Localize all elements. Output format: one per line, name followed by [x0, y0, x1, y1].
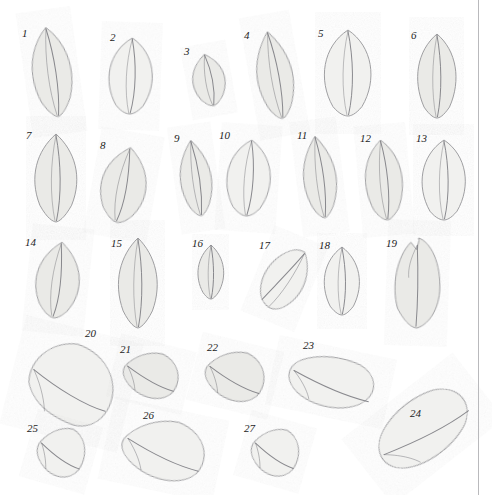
specimen-label-11: 11	[297, 130, 307, 141]
leaf-specimen-1	[26, 25, 77, 120]
leaf-specimen-13	[422, 140, 465, 220]
leaf-specimen-5	[324, 30, 371, 116]
leaf-specimen-16	[198, 245, 224, 299]
leaf-specimen-canvas	[0, 0, 492, 495]
leaf-specimen-2	[108, 37, 154, 114]
specimen-label-13: 13	[416, 133, 427, 144]
specimen-label-1: 1	[22, 28, 28, 39]
specimen-label-9: 9	[174, 133, 180, 144]
specimen-label-19: 19	[386, 238, 397, 249]
leaf-specimen-7	[35, 134, 77, 222]
specimen-label-16: 16	[192, 238, 203, 249]
leaf-outline-5	[324, 30, 371, 116]
leaf-outline-3	[188, 52, 229, 109]
leaf-outline-8	[95, 144, 153, 227]
leaf-specimen-4	[250, 29, 300, 122]
leaf-specimen-11	[299, 134, 341, 219]
leaf-specimen-20	[21, 335, 123, 433]
specimen-label-7: 7	[26, 130, 32, 141]
specimen-label-2: 2	[110, 32, 116, 43]
leaf-outline-4	[250, 29, 300, 122]
leaf-specimen-3	[188, 52, 229, 109]
specimen-label-6: 6	[411, 30, 417, 41]
leaf-specimen-17	[253, 241, 315, 316]
leaf-outline-18	[324, 247, 359, 315]
leaf-specimen-8	[95, 144, 153, 227]
specimen-label-23: 23	[303, 340, 314, 351]
specimen-label-26: 26	[143, 410, 154, 421]
leaf-outline-2	[108, 37, 154, 114]
leaf-outline-26	[116, 412, 210, 487]
leaf-specimen-9	[175, 138, 216, 218]
leaf-specimen-23	[284, 349, 378, 416]
specimen-label-17: 17	[259, 240, 270, 251]
leaf-outline-23	[284, 349, 378, 416]
leaf-specimen-24	[365, 375, 481, 484]
specimen-label-12: 12	[360, 133, 371, 144]
leaf-outline-1	[26, 25, 77, 120]
leaf-outline-17	[253, 241, 315, 316]
leaf-specimen-10	[224, 139, 272, 218]
specimen-label-18: 18	[319, 240, 330, 251]
leaf-specimen-26	[116, 412, 210, 487]
specimen-label-8: 8	[100, 140, 106, 151]
leaf-outline-13	[422, 140, 465, 220]
leaf-outline-15	[118, 238, 157, 328]
specimen-label-24: 24	[410, 408, 421, 419]
specimen-label-20: 20	[85, 328, 96, 339]
leaf-outline-20	[21, 335, 123, 433]
specimen-label-4: 4	[244, 30, 250, 41]
leaf-specimen-14	[32, 240, 83, 320]
leaf-specimen-12	[362, 139, 406, 222]
specimen-label-15: 15	[111, 238, 122, 249]
leaf-outline-24	[365, 375, 481, 484]
leaf-outline-25	[31, 421, 90, 482]
leaf-specimen-19	[394, 237, 442, 329]
specimen-label-25: 25	[27, 423, 38, 434]
leaf-outline-7	[35, 134, 77, 222]
leaf-outline-11	[299, 134, 341, 219]
leaf-outline-22	[200, 344, 270, 406]
leaf-specimen-25	[31, 421, 90, 482]
leaf-outline-14	[32, 240, 83, 320]
plate-right-rule	[478, 0, 479, 495]
leaf-specimen-6	[418, 34, 456, 118]
leaf-specimen-22	[200, 344, 270, 406]
leaf-outline-9	[175, 138, 216, 218]
specimen-label-10: 10	[219, 130, 230, 141]
leaf-specimen-18	[324, 247, 359, 315]
specimen-label-22: 22	[207, 342, 218, 353]
specimen-label-27: 27	[244, 423, 255, 434]
leaf-outline-6	[418, 34, 456, 118]
botanical-plate: 1234567891011121314151617181920212223242…	[0, 0, 492, 495]
specimen-label-3: 3	[184, 46, 190, 57]
specimen-label-14: 14	[25, 237, 36, 248]
leaf-outline-16	[198, 245, 224, 299]
leaf-specimen-15	[118, 238, 157, 328]
specimen-label-21: 21	[120, 344, 131, 355]
specimen-label-5: 5	[318, 28, 324, 39]
